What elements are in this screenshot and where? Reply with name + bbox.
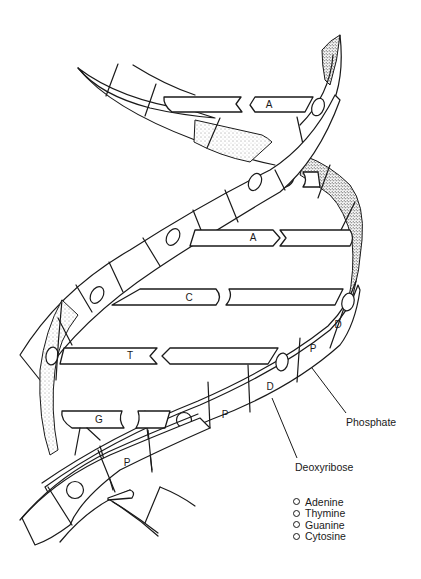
label-d-1: D bbox=[334, 319, 341, 330]
legend-item-thymine: Thymine bbox=[293, 508, 346, 520]
base-legend: Adenine Thymine Guanine Cytosine bbox=[293, 496, 346, 542]
base-pair-upper-middle: A bbox=[190, 230, 353, 246]
legend-label: Adenine bbox=[305, 496, 344, 508]
base-label-t: T bbox=[127, 350, 133, 361]
circle-outline-icon bbox=[293, 521, 300, 528]
label-p-3: P bbox=[124, 457, 131, 468]
base-label-g: G bbox=[95, 414, 103, 425]
circle-outline-icon bbox=[293, 510, 300, 517]
base-right-top bbox=[250, 97, 313, 112]
label-p-1: P bbox=[310, 343, 317, 354]
legend-item-guanine: Guanine bbox=[293, 519, 346, 531]
base-pair-top: A bbox=[164, 97, 313, 112]
label-d-2: D bbox=[266, 381, 273, 392]
base-pair-lower-middle: T bbox=[60, 348, 278, 364]
label-p-2: P bbox=[222, 409, 229, 420]
base-label-c-middle: C bbox=[185, 292, 192, 303]
back-strand-upper bbox=[78, 64, 275, 165]
base-label-a-middle: A bbox=[250, 232, 257, 243]
phosphate-label: Phosphate bbox=[346, 416, 396, 428]
base-label-a-top: A bbox=[266, 99, 273, 110]
dna-helix-diagram: A C A C bbox=[0, 0, 421, 579]
callout-phosphate: Phosphate bbox=[312, 368, 396, 428]
base-pair-middle: C bbox=[112, 289, 343, 305]
legend-label: Cytosine bbox=[305, 530, 346, 542]
deoxyribose-label: Deoxyribose bbox=[295, 461, 354, 473]
circle-outline-icon bbox=[293, 533, 300, 540]
callout-deoxyribose: Deoxyribose bbox=[272, 398, 354, 473]
legend-label: Thymine bbox=[305, 507, 345, 519]
base-left-top bbox=[164, 97, 242, 112]
circle-outline-icon bbox=[293, 498, 300, 505]
legend-item-adenine: Adenine bbox=[293, 496, 346, 508]
legend-item-cytosine: Cytosine bbox=[293, 531, 346, 543]
base-ring-bottom bbox=[67, 482, 84, 499]
legend-label: Guanine bbox=[305, 519, 345, 531]
